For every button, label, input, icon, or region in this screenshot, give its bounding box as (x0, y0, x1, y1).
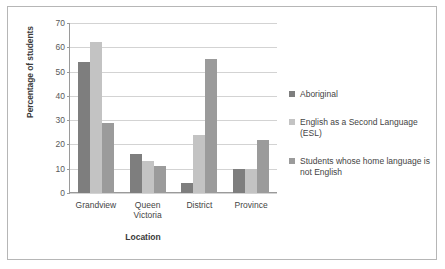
y-axis-tick-mark (67, 144, 70, 145)
legend-swatch-icon (289, 158, 295, 164)
x-axis-tick-label: District (186, 200, 212, 210)
bar (233, 169, 245, 193)
legend-item-label: English as a Second Language (ESL) (300, 117, 431, 139)
chart-container: Percentage of students 010203040506070 G… (7, 6, 437, 260)
legend-item-label: Students whose home language is not Engl… (300, 156, 431, 178)
y-axis-tick-mark (67, 193, 70, 194)
legend-item: Aboriginal (289, 89, 431, 100)
legend-item-label: Aboriginal (300, 89, 338, 100)
legend-item: Students whose home language is not Engl… (289, 156, 431, 178)
y-axis-tick-label: 40 (56, 91, 65, 101)
y-axis-line (69, 23, 70, 193)
x-axis-tick-label: Province (235, 200, 268, 210)
bar (90, 42, 102, 193)
bar (181, 183, 193, 193)
y-axis-tick-label: 10 (56, 164, 65, 174)
bar (245, 169, 257, 193)
y-axis-tick-mark (67, 72, 70, 73)
bar (257, 140, 269, 193)
chart-legend: AboriginalEnglish as a Second Language (… (289, 89, 431, 195)
bar (193, 135, 205, 193)
bar (78, 62, 90, 193)
y-axis-tick-mark (67, 96, 70, 97)
y-axis-tick-mark (67, 169, 70, 170)
gridline (70, 23, 277, 24)
y-axis-title: Percentage of students (25, 2, 35, 142)
bar (142, 161, 154, 193)
y-axis-tick-mark (67, 47, 70, 48)
y-axis-tick-mark (67, 23, 70, 24)
legend-swatch-icon (289, 119, 295, 125)
bar (130, 154, 142, 193)
legend-item: English as a Second Language (ESL) (289, 117, 431, 139)
y-axis-tick-mark (67, 120, 70, 121)
legend-swatch-icon (289, 91, 295, 97)
gridline (70, 193, 277, 194)
x-axis-tick-label: Grandview (76, 200, 117, 210)
y-axis-tick-label: 30 (56, 115, 65, 125)
bar (205, 59, 217, 193)
plot-area: 010203040506070 GrandviewQueen VictoriaD… (70, 23, 277, 193)
bar (102, 123, 114, 193)
y-axis-tick-label: 0 (60, 188, 65, 198)
bar (154, 166, 166, 193)
y-axis-tick-label: 50 (56, 67, 65, 77)
x-axis-tick-label: Queen Victoria (134, 200, 162, 220)
y-axis-tick-label: 70 (56, 18, 65, 28)
x-axis-title: Location (8, 232, 278, 242)
y-axis-tick-label: 20 (56, 139, 65, 149)
y-axis-tick-label: 60 (56, 42, 65, 52)
